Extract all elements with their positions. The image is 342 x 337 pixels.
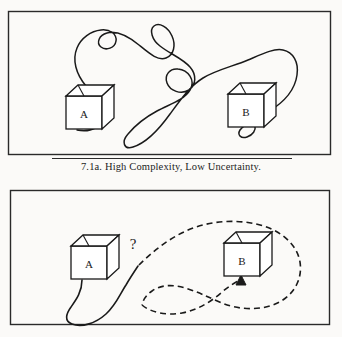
box-b-bottom-label: B bbox=[238, 255, 245, 267]
panel-bottom-graphic: ? A B bbox=[0, 182, 342, 337]
box-b-top: B bbox=[228, 83, 276, 127]
panel-top-frame bbox=[9, 12, 331, 155]
panel-bottom-frame bbox=[11, 191, 330, 325]
box-b-bottom: B bbox=[224, 232, 272, 276]
box-a-top: A bbox=[66, 85, 114, 129]
figure-7-1a: A B 7.1a. High Complexity, Low Uncertain… bbox=[0, 0, 342, 337]
figure-caption: 7.1a. High Complexity, Low Uncertainty. bbox=[0, 161, 342, 172]
box-a-bottom: A bbox=[71, 235, 119, 279]
uncertainty-connector-dashed bbox=[139, 221, 300, 314]
box-a-top-label: A bbox=[80, 108, 88, 120]
panel-top-graphic: A B bbox=[0, 0, 342, 156]
box-b-top-label: B bbox=[242, 106, 249, 118]
box-a-bottom-label: A bbox=[85, 258, 93, 270]
uncertainty-question-mark: ? bbox=[130, 236, 137, 252]
figure-caption-band: 7.1a. High Complexity, Low Uncertainty. bbox=[0, 156, 342, 182]
caption-rule bbox=[52, 158, 292, 159]
